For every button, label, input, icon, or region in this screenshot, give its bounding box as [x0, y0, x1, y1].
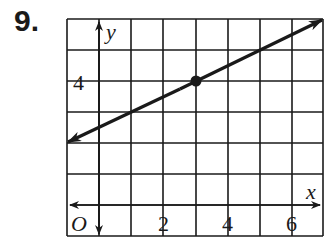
axes [70, 22, 320, 234]
origin-label: O [71, 211, 87, 236]
x-tick-6: 6 [286, 211, 297, 236]
y-tick-4: 4 [73, 70, 84, 95]
x-axis-label: x [305, 179, 316, 204]
grid [67, 19, 323, 236]
y-axis-label: y [104, 19, 116, 44]
coordinate-graph: y x 4 O 2 4 6 [0, 0, 336, 247]
data-point [191, 76, 202, 87]
x-tick-2: 2 [158, 211, 169, 236]
x-tick-4: 4 [222, 211, 233, 236]
